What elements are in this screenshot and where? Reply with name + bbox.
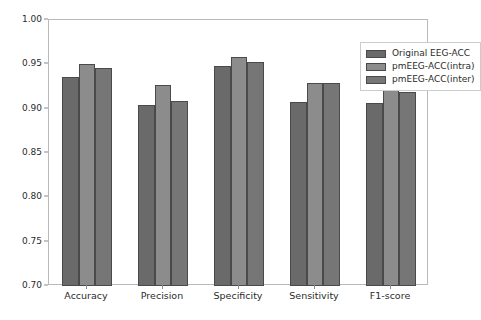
x-axis-tick-label: Precision — [141, 290, 183, 301]
bar — [95, 68, 112, 286]
bar — [323, 83, 340, 286]
y-axis-tick-mark — [44, 19, 48, 20]
x-axis-tick-label: Accuracy — [64, 290, 107, 301]
y-axis-tick-label: 0.80 — [8, 191, 42, 201]
y-axis-tick-label: 0.70 — [8, 280, 42, 290]
y-axis-tick-label: 0.95 — [8, 58, 42, 68]
y-axis-tick-mark — [44, 196, 48, 197]
x-axis-tick-mark — [162, 285, 163, 289]
bar — [62, 77, 79, 286]
bar — [231, 57, 248, 286]
legend-swatch-icon — [366, 63, 386, 71]
legend-swatch-icon — [366, 76, 386, 84]
y-axis-tick-label: 0.90 — [8, 103, 42, 113]
chart-legend: Original EEG-ACCpmEEG-ACC(intra)pmEEG-AC… — [360, 42, 481, 91]
bar — [366, 103, 383, 286]
x-axis-tick-label: F1-score — [370, 290, 410, 301]
legend-item: pmEEG-ACC(intra) — [366, 60, 474, 73]
y-axis-tick-mark — [44, 285, 48, 286]
y-axis-tick-label: 0.85 — [8, 147, 42, 157]
y-axis-tick-mark — [44, 63, 48, 64]
bar — [214, 66, 231, 286]
y-axis-tick-mark — [44, 240, 48, 241]
bar — [399, 92, 416, 286]
legend-swatch-icon — [366, 50, 386, 58]
bar — [383, 83, 400, 286]
plot-area: Original EEG-ACCpmEEG-ACC(intra)pmEEG-AC… — [48, 19, 428, 285]
y-axis-tick-mark — [44, 152, 48, 153]
y-axis-tick-mark — [44, 107, 48, 108]
y-axis-tick-label: 1.00 — [8, 14, 42, 24]
bar — [79, 64, 96, 286]
x-axis-tick-mark — [390, 285, 391, 289]
x-axis-tick-mark — [314, 285, 315, 289]
bar — [290, 102, 307, 286]
bar — [155, 85, 172, 286]
bar — [171, 101, 188, 286]
x-axis-tick-label: Specificity — [214, 290, 263, 301]
legend-label: Original EEG-ACC — [392, 47, 470, 60]
legend-label: pmEEG-ACC(inter) — [392, 73, 474, 86]
legend-item: Original EEG-ACC — [366, 47, 474, 60]
bar — [247, 62, 264, 286]
x-axis-tick-mark — [86, 285, 87, 289]
bar — [307, 83, 324, 286]
bar — [138, 105, 155, 286]
x-axis-tick-mark — [238, 285, 239, 289]
legend-item: pmEEG-ACC(inter) — [366, 73, 474, 86]
legend-label: pmEEG-ACC(intra) — [392, 60, 474, 73]
x-axis-tick-label: Sensitivity — [289, 290, 338, 301]
y-axis-tick-label: 0.75 — [8, 236, 42, 246]
